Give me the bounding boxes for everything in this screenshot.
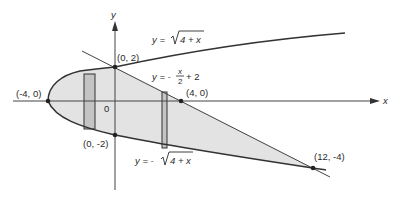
x-axis-label: x xyxy=(382,95,389,106)
point-label-12-neg4: (12, -4) xyxy=(314,151,345,162)
svg-text:y =: y = xyxy=(151,34,165,45)
y-axis-label: y xyxy=(110,9,117,20)
x-axis-arrow-icon xyxy=(370,98,380,104)
svg-text:+ 2: + 2 xyxy=(186,71,199,82)
svg-text:4 + x: 4 + x xyxy=(180,34,202,45)
svg-text:4 + x: 4 + x xyxy=(170,155,192,166)
point-label-0-2: (0, 2) xyxy=(117,52,139,63)
lower-curve-label: y = - 4 + x xyxy=(134,152,193,166)
upper-curve-label: y = 4 + x xyxy=(151,31,204,45)
svg-text:x: x xyxy=(177,67,183,76)
svg-text:2: 2 xyxy=(178,77,183,86)
point-0-neg2 xyxy=(113,133,118,138)
point-4-0 xyxy=(179,99,184,104)
point-label-4-0: (4, 0) xyxy=(186,87,208,98)
point-label-neg4-0: (-4, 0) xyxy=(16,88,41,99)
svg-text:y = -: y = - xyxy=(134,155,154,166)
point-neg4-0 xyxy=(46,99,51,104)
point-label-0-neg2: (0, -2) xyxy=(83,138,108,149)
y-axis-arrow-icon xyxy=(112,21,118,31)
line-label: y = - x 2 + 2 xyxy=(151,67,199,86)
svg-text:y = -: y = - xyxy=(151,71,171,82)
point-12-neg4 xyxy=(311,166,316,171)
right-strip xyxy=(162,92,167,148)
point-0-2 xyxy=(113,65,118,70)
region-diagram: y x 0 (0, 2) (-4, 0) (4, 0) (0, -2) (12,… xyxy=(0,0,396,197)
origin-label: 0 xyxy=(104,103,109,114)
